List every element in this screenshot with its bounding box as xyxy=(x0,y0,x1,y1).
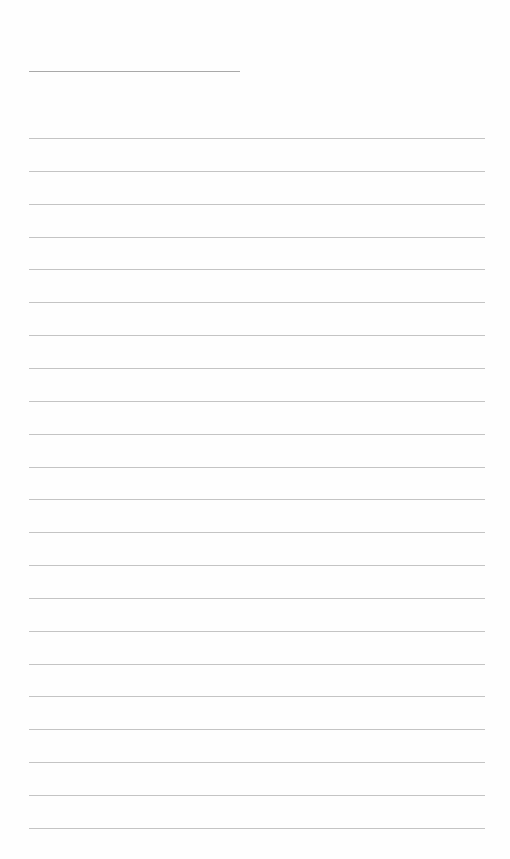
ruled-line xyxy=(29,401,485,402)
lined-paper-page xyxy=(0,0,510,859)
ruled-line xyxy=(29,828,485,829)
ruled-line xyxy=(29,565,485,566)
ruled-line xyxy=(29,138,485,139)
ruled-line xyxy=(29,664,485,665)
ruled-line xyxy=(29,532,485,533)
ruled-line xyxy=(29,204,485,205)
ruled-line xyxy=(29,467,485,468)
ruled-line xyxy=(29,762,485,763)
ruled-line xyxy=(29,237,485,238)
ruled-line xyxy=(29,696,485,697)
ruled-line xyxy=(29,729,485,730)
ruled-line xyxy=(29,368,485,369)
ruled-line xyxy=(29,269,485,270)
ruled-line xyxy=(29,631,485,632)
ruled-line xyxy=(29,335,485,336)
header-name-line xyxy=(29,71,240,72)
ruled-line xyxy=(29,171,485,172)
ruled-line xyxy=(29,302,485,303)
ruled-line xyxy=(29,795,485,796)
ruled-line xyxy=(29,434,485,435)
ruled-line xyxy=(29,598,485,599)
ruled-line xyxy=(29,499,485,500)
